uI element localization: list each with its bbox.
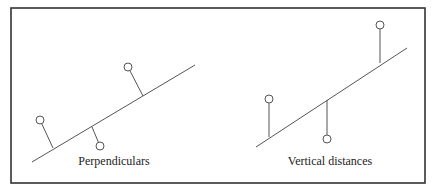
panel-perpendiculars: Perpendiculars <box>32 63 195 168</box>
panel-label: Perpendiculars <box>78 154 150 168</box>
distance-segment <box>92 127 98 142</box>
distance-segment <box>130 71 143 96</box>
data-point-circle <box>96 142 104 150</box>
regression-distance-diagram: PerpendicularsVertical distances <box>0 0 433 191</box>
panels: PerpendicularsVertical distances <box>32 21 407 168</box>
fit-line <box>256 48 407 147</box>
panel-label: Vertical distances <box>288 154 373 168</box>
panel-vertical-distances: Vertical distances <box>256 21 407 168</box>
data-point-circle <box>36 116 44 124</box>
data-point-circle <box>124 63 132 71</box>
distance-segment <box>42 124 53 148</box>
data-point-circle <box>323 135 331 143</box>
data-point-circle <box>265 95 273 103</box>
data-point-circle <box>376 21 384 29</box>
fit-line <box>32 65 195 162</box>
